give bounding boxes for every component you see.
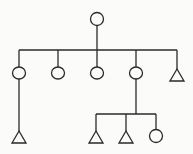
circle-icon-root	[91, 13, 104, 26]
circle-icon-c1	[13, 67, 26, 79]
circle-icon-c3	[91, 67, 104, 79]
triangle-icon-g3	[119, 131, 133, 143]
triangle-icon-g2	[89, 131, 103, 143]
triangle-icon-g1	[12, 131, 26, 143]
circle-icon-c2	[52, 67, 65, 79]
circle-icon-c4	[130, 67, 143, 79]
kinship-diagram	[0, 0, 193, 154]
circle-icon-g4	[150, 130, 163, 143]
triangle-icon-c5	[170, 69, 184, 81]
